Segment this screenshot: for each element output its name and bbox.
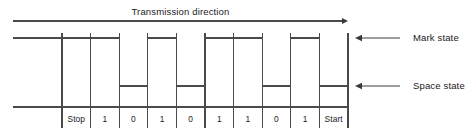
bit-label: 1 bbox=[103, 114, 108, 124]
bit-label: Start bbox=[325, 114, 344, 124]
bit-label: 1 bbox=[303, 114, 308, 124]
signal-waveform bbox=[13, 38, 348, 86]
bit-label: 0 bbox=[274, 114, 279, 124]
bit-label: 0 bbox=[131, 114, 136, 124]
space-state-callout: Space state bbox=[355, 80, 465, 91]
waveform-canvas: Transmission direction Stop10101101Start… bbox=[0, 0, 473, 133]
diagram-title: Transmission direction bbox=[132, 6, 230, 17]
bit-label: 1 bbox=[160, 114, 165, 124]
bit-label: 1 bbox=[217, 114, 222, 124]
bit-label: Stop bbox=[67, 114, 85, 124]
mark-state-callout-text: Mark state bbox=[413, 32, 459, 43]
mark-state-callout: Mark state bbox=[355, 32, 459, 43]
serial-waveform-diagram: Transmission direction Stop10101101Start… bbox=[0, 0, 473, 133]
transmission-direction-arrow bbox=[13, 18, 348, 24]
bit-label: 0 bbox=[188, 114, 193, 124]
bit-label: 1 bbox=[246, 114, 251, 124]
space-state-callout-text: Space state bbox=[413, 80, 465, 91]
state-callouts: Mark stateSpace state bbox=[355, 32, 465, 91]
